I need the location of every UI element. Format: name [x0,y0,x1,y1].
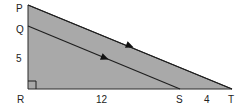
vertex-label-s: S [176,94,183,105]
measure-rs: 12 [96,94,108,105]
vertex-label-q: Q [16,24,24,35]
vertex-label-p: P [16,3,23,14]
vertex-label-r: R [17,94,24,105]
triangle-diagram: P Q R S T 5 12 4 [0,0,246,110]
measure-qr: 5 [16,53,22,64]
measure-st: 4 [204,94,210,105]
vertex-label-t: T [228,94,234,105]
